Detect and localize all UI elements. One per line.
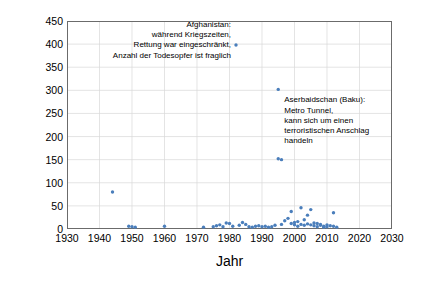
data-point xyxy=(231,225,234,228)
data-point xyxy=(309,208,312,211)
data-point xyxy=(303,218,306,221)
data-point xyxy=(212,225,215,228)
data-point xyxy=(280,158,283,161)
y-tick-label: 450 xyxy=(23,16,63,26)
annotation-line: kann sich um einen xyxy=(284,116,369,126)
data-point xyxy=(316,222,319,225)
annotation-line: terroristischen Anschlag xyxy=(284,126,369,136)
data-point xyxy=(303,224,306,227)
data-point xyxy=(264,225,267,228)
y-tick-label: 200 xyxy=(23,132,63,142)
data-point xyxy=(283,219,286,222)
annotation-afghanistan: Afghanistan:während Kriegszeiten,Rettung… xyxy=(113,20,231,61)
data-point xyxy=(277,157,280,160)
data-point xyxy=(312,224,315,227)
annotation-line: Rettung war eingeschränkt, xyxy=(113,40,231,50)
annotation-baku: Aserbaidschan (Baku):Metro Tunnel,kann s… xyxy=(284,95,369,146)
data-point xyxy=(299,206,302,209)
data-point xyxy=(228,222,231,225)
data-point xyxy=(257,224,260,227)
data-point xyxy=(296,225,299,228)
y-tick-label: 150 xyxy=(23,155,63,165)
data-point xyxy=(290,210,293,213)
data-point xyxy=(299,223,302,226)
data-point xyxy=(280,223,283,226)
data-point xyxy=(134,225,137,228)
annotation-line: Anzahl der Todesopfer ist fraglich xyxy=(113,51,231,61)
scatter-chart-figure: Anzahl Todesopfer 0501001502002503003504… xyxy=(0,0,426,282)
data-point xyxy=(325,225,328,228)
data-point xyxy=(290,222,293,225)
data-point xyxy=(238,224,241,227)
data-point xyxy=(319,224,322,227)
data-point xyxy=(254,225,257,228)
data-point xyxy=(163,225,166,228)
data-point xyxy=(293,223,296,226)
data-point xyxy=(309,223,312,226)
data-point xyxy=(316,225,319,228)
y-tick-label: 50 xyxy=(23,201,63,211)
data-point xyxy=(251,225,254,228)
annotation-line: während Kriegszeiten, xyxy=(113,30,231,40)
data-point xyxy=(218,223,221,226)
data-point xyxy=(130,225,133,228)
data-point xyxy=(306,222,309,225)
data-point xyxy=(329,224,332,227)
data-point xyxy=(260,225,263,228)
data-point xyxy=(234,43,237,46)
data-point xyxy=(332,225,335,228)
data-point xyxy=(221,225,224,228)
data-point xyxy=(277,88,280,91)
annotation-line: Metro Tunnel, xyxy=(284,106,369,116)
data-point xyxy=(322,225,325,228)
y-tick-label: 350 xyxy=(23,62,63,72)
annotation-line: Aserbaidschan (Baku): xyxy=(284,95,369,105)
data-point xyxy=(286,217,289,220)
annotation-line: handeln xyxy=(284,136,369,146)
x-tick-label: 2030 xyxy=(370,233,414,244)
data-point xyxy=(111,190,114,193)
data-point xyxy=(225,221,228,224)
data-point xyxy=(270,225,273,228)
data-point xyxy=(332,211,335,214)
annotation-line: Afghanistan: xyxy=(113,20,231,30)
data-point xyxy=(215,224,218,227)
data-point xyxy=(244,223,247,226)
y-tick-label: 400 xyxy=(23,39,63,49)
data-point xyxy=(202,225,205,228)
data-point xyxy=(296,220,299,223)
data-point xyxy=(241,221,244,224)
y-tick-label: 250 xyxy=(23,108,63,118)
data-point xyxy=(127,225,130,228)
data-point xyxy=(247,225,250,228)
data-point xyxy=(306,213,309,216)
data-point xyxy=(335,225,338,228)
data-point xyxy=(267,225,270,228)
y-tick-label: 300 xyxy=(23,85,63,95)
y-tick-label: 100 xyxy=(23,178,63,188)
data-point xyxy=(273,224,276,227)
